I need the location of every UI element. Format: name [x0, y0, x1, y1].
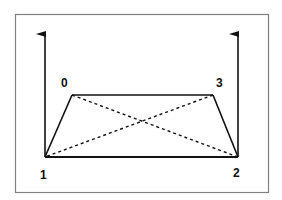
point-label-2: 2 — [233, 166, 240, 180]
diagonal-0-2 — [72, 95, 238, 157]
point-label-1: 1 — [40, 168, 47, 182]
point-label-0: 0 — [61, 76, 68, 90]
diagonal-3-1 — [45, 95, 213, 157]
diagram-frame — [16, 15, 269, 193]
edge-3-2 — [213, 95, 238, 157]
point-label-3: 3 — [216, 76, 223, 90]
edge-1-0 — [45, 95, 72, 157]
diagram-canvas: 0 1 2 3 — [0, 0, 282, 200]
